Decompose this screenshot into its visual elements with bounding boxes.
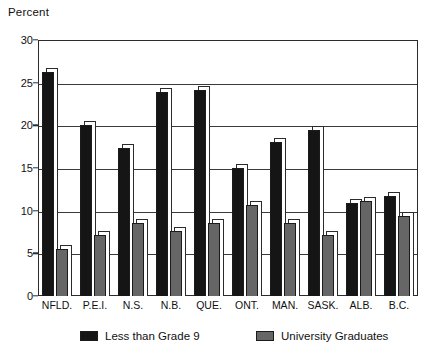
gridline: [39, 254, 417, 255]
gridline: [39, 84, 417, 85]
legend-label: University Graduates: [281, 330, 388, 342]
plot-area: [38, 40, 418, 296]
y-axis-tick-marks: [0, 40, 38, 296]
x-axis-tick-label: QUE.: [196, 299, 222, 311]
gridline: [39, 126, 417, 127]
x-axis-tick-label: NFLD.: [42, 299, 72, 311]
legend-swatch: [80, 331, 98, 341]
x-axis-tick-label: ALB.: [350, 299, 373, 311]
legend-swatch: [256, 331, 274, 341]
x-axis-tick-labels: NFLD.P.E.I.N.S.N.B.QUE.ONT.MAN.SASK.ALB.…: [38, 299, 418, 319]
x-axis-tick-label: SASK.: [308, 299, 339, 311]
x-axis-tick-label: MAN.: [272, 299, 298, 311]
legend-item: University Graduates: [256, 330, 388, 342]
legend-label: Less than Grade 9: [105, 330, 200, 342]
x-axis-tick-label: B.C.: [389, 299, 409, 311]
bar-chart: Percent 051015202530 NFLD.P.E.I.N.S.N.B.…: [0, 0, 433, 354]
y-axis-title: Percent: [8, 6, 49, 18]
x-axis-tick-label: N.B.: [161, 299, 181, 311]
x-axis-tick-label: N.S.: [123, 299, 143, 311]
x-axis-tick-label: P.E.I.: [83, 299, 107, 311]
gridline: [39, 212, 417, 213]
chart-legend: Less than Grade 9University Graduates: [38, 330, 418, 348]
x-axis-tick-label: ONT.: [235, 299, 259, 311]
legend-item: Less than Grade 9: [80, 330, 200, 342]
gridline: [39, 169, 417, 170]
